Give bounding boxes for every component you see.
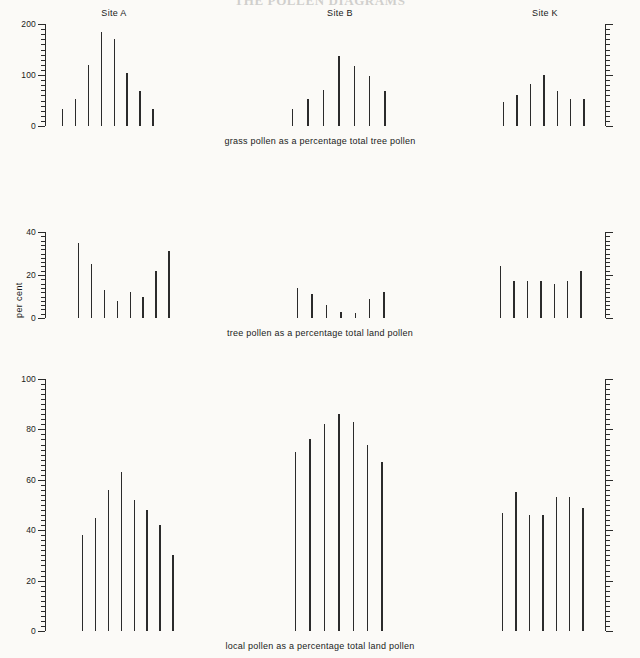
axis-tick-major <box>38 581 45 582</box>
bar <box>295 452 296 631</box>
axis-tick-minor <box>606 414 610 415</box>
axis-tick-minor <box>606 591 610 592</box>
axis-tick-minor <box>606 550 610 551</box>
axis-tick-minor <box>41 611 45 612</box>
axis-tick-minor <box>606 65 610 66</box>
axis-tick-major <box>606 530 613 531</box>
axis-tick-minor <box>606 279 610 280</box>
axis-tick-minor <box>606 34 610 35</box>
axis-tick-major <box>38 318 45 319</box>
panel-grass-pollen: 0100200 Site A Site B Site K grass polle… <box>0 24 640 126</box>
bar <box>323 90 324 126</box>
axis-tick-minor <box>41 424 45 425</box>
axis-tick-minor <box>41 241 45 242</box>
bar <box>62 109 63 126</box>
axis-tick-minor <box>41 266 45 267</box>
axis-tick-minor <box>41 384 45 385</box>
axis-tick-minor <box>41 389 45 390</box>
axis-tick-minor <box>41 555 45 556</box>
bar <box>126 73 127 126</box>
axis-tick-label: 0 <box>31 313 36 323</box>
axis-tick-minor <box>41 540 45 541</box>
y-axis-left-row3: 020406080100 <box>38 379 46 631</box>
bar <box>580 271 581 318</box>
bar <box>369 76 370 126</box>
bar <box>556 497 557 631</box>
axis-tick-minor <box>606 616 610 617</box>
axis-tick-minor <box>606 525 610 526</box>
axis-tick-minor <box>41 434 45 435</box>
bar <box>529 515 530 631</box>
axis-tick-minor <box>41 535 45 536</box>
axis-tick-minor <box>41 34 45 35</box>
bar <box>108 490 109 631</box>
axis-tick-minor <box>606 249 610 250</box>
axis-tick-label: 40 <box>26 525 36 535</box>
bar <box>367 445 368 631</box>
axis-tick-minor <box>41 409 45 410</box>
axis-tick-minor <box>606 314 610 315</box>
axis-tick-minor <box>606 606 610 607</box>
axis-tick-minor <box>41 44 45 45</box>
axis-tick-minor <box>41 626 45 627</box>
axis-tick-minor <box>606 106 610 107</box>
axis-tick-minor <box>41 545 45 546</box>
axis-tick-minor <box>41 621 45 622</box>
bar <box>130 292 131 318</box>
axis-tick-major <box>38 429 45 430</box>
axis-tick-major <box>606 232 613 233</box>
axis-tick-minor <box>41 455 45 456</box>
bar <box>353 422 354 631</box>
bar <box>570 99 571 126</box>
axis-tick-label: 20 <box>26 576 36 586</box>
axis-tick-minor <box>606 60 610 61</box>
bar <box>540 281 541 318</box>
axis-tick-minor <box>41 419 45 420</box>
bar <box>155 271 156 318</box>
bar <box>369 299 370 318</box>
axis-tick-minor <box>606 510 610 511</box>
bar <box>355 313 356 318</box>
bar <box>516 95 517 126</box>
axis-tick-minor <box>41 515 45 516</box>
axis-tick-minor <box>41 305 45 306</box>
axis-tick-minor <box>41 271 45 272</box>
axis-tick-minor <box>606 271 610 272</box>
axis-tick-minor <box>606 601 610 602</box>
axis-tick-label: 80 <box>26 424 36 434</box>
axis-tick-minor <box>41 505 45 506</box>
axis-tick-minor <box>606 399 610 400</box>
axis-tick-minor <box>606 266 610 267</box>
bar <box>384 91 385 126</box>
axis-tick-minor <box>606 111 610 112</box>
axis-tick-minor <box>41 525 45 526</box>
axis-tick-minor <box>606 39 610 40</box>
axis-tick-minor <box>41 29 45 30</box>
axis-tick-major <box>606 275 613 276</box>
axis-tick-minor <box>41 314 45 315</box>
axis-tick-minor <box>41 236 45 237</box>
axis-tick-minor <box>41 284 45 285</box>
axis-tick-minor <box>606 384 610 385</box>
axis-tick-major <box>606 581 613 582</box>
axis-tick-minor <box>606 236 610 237</box>
axis-tick-minor <box>41 65 45 66</box>
y-axis-right-row2 <box>605 232 613 318</box>
axis-tick-minor <box>41 616 45 617</box>
axis-tick-minor <box>41 288 45 289</box>
axis-tick-minor <box>606 576 610 577</box>
axis-tick-label: 0 <box>31 626 36 636</box>
axis-tick-minor <box>41 465 45 466</box>
axis-tick-minor <box>41 565 45 566</box>
axis-tick-minor <box>41 591 45 592</box>
axis-tick-minor <box>606 475 610 476</box>
axis-tick-minor <box>41 606 45 607</box>
bar <box>503 102 504 126</box>
axis-tick-minor <box>41 258 45 259</box>
axis-tick-minor <box>606 450 610 451</box>
bar <box>88 65 89 126</box>
bar <box>582 508 583 631</box>
axis-tick-minor <box>41 414 45 415</box>
axis-tick-minor <box>606 262 610 263</box>
bar <box>530 84 531 126</box>
